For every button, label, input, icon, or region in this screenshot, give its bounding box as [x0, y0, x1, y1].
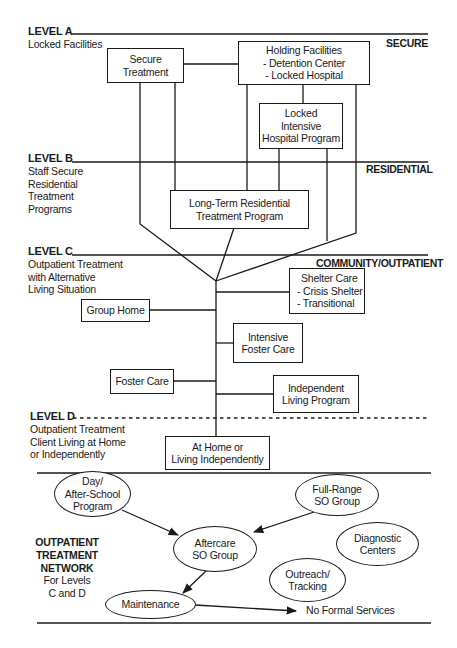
box-text: - Transitional	[297, 297, 354, 310]
level-d-heading: LEVEL D	[30, 410, 126, 423]
box-text: Locked	[285, 107, 318, 120]
box-text: Intensive	[281, 120, 321, 133]
outreach-tracking-node: Outreach/ Tracking	[269, 558, 346, 602]
level-a-label: LEVEL A Locked Facilities	[28, 25, 102, 51]
maintenance-node: Maintenance	[105, 590, 196, 619]
aftercare-so-group-node: Aftercare SO Group	[173, 526, 257, 572]
long-term-residential-box: Long-Term Residential Treatment Program	[170, 190, 309, 229]
box-text: Living Program	[282, 394, 350, 407]
box-text: Foster Care	[115, 375, 168, 388]
node-text: Maintenance	[122, 598, 180, 611]
node-text: SO Group	[192, 549, 238, 562]
node-text: SO Group	[314, 495, 360, 508]
node-text: Program	[73, 500, 112, 513]
node-text: Centers	[360, 544, 395, 557]
secure-treatment-box: Secure Treatment	[107, 48, 184, 83]
box-text: - Detention Center	[263, 57, 345, 70]
level-d-desc-line: Outpatient Treatment	[30, 423, 126, 436]
box-text: Living Independently	[171, 453, 263, 466]
node-text: Diagnostic	[354, 532, 401, 545]
level-c-desc-line: with Alternative	[28, 271, 123, 284]
box-text: Group Home	[86, 304, 144, 317]
box-text: At Home or	[192, 441, 243, 454]
level-a-heading: LEVEL A	[28, 25, 102, 38]
locked-intensive-hospital-box: Locked Intensive Hospital Program	[259, 103, 343, 149]
node-text: After-School	[65, 488, 120, 501]
level-c-label: LEVEL C Outpatient Treatment with Altern…	[28, 245, 123, 296]
level-c-desc-line: Living Situation	[28, 283, 123, 296]
level-b-desc-line: Treatment	[28, 190, 83, 203]
level-d-desc-line: Client Living at Home	[30, 436, 126, 449]
box-text: Long-Term Residential	[189, 197, 290, 210]
holding-facilities-box: Holding Facilities - Detention Center - …	[238, 41, 370, 85]
level-b-label: LEVEL B Staff Secure Residential Treatme…	[28, 152, 83, 216]
network-title-line: OUTPATIENT	[24, 536, 110, 549]
node-text: Day/	[82, 475, 103, 488]
at-home-box: At Home or Living Independently	[165, 436, 270, 470]
node-text: Outreach/	[285, 568, 329, 581]
node-text: Aftercare	[195, 537, 236, 550]
box-text: Intensive	[248, 331, 288, 344]
independent-living-box: Independent Living Program	[273, 375, 359, 413]
zone-secure: SECURE	[386, 37, 428, 49]
box-text: Secure	[129, 53, 161, 66]
box-text: Treatment Program	[196, 210, 283, 223]
box-text: Shelter Care	[297, 272, 358, 285]
foster-care-box: Foster Care	[110, 369, 174, 394]
box-text: Independent	[288, 382, 344, 395]
intensive-foster-care-box: Intensive Foster Care	[233, 323, 303, 363]
level-c-heading: LEVEL C	[28, 245, 123, 258]
box-text: Holding Facilities	[266, 44, 342, 57]
level-a-desc: Locked Facilities	[28, 38, 102, 51]
network-subtitle-line: C and D	[24, 587, 110, 600]
network-title: OUTPATIENT TREATMENT NETWORK For Levels …	[24, 536, 110, 600]
node-text: Tracking	[288, 580, 326, 593]
shelter-care-box: Shelter Care - Crisis Shelter - Transiti…	[289, 268, 365, 314]
zone-residential: RESIDENTIAL	[366, 163, 433, 175]
network-title-line: TREATMENT	[24, 549, 110, 562]
box-text: Foster Care	[241, 343, 294, 356]
level-d-desc-line: or Independently	[30, 448, 126, 461]
node-text: Full-Range	[312, 483, 361, 496]
no-formal-services-label: No Formal Services	[306, 604, 395, 616]
box-text: Treatment	[123, 66, 169, 79]
level-b-desc-line: Staff Secure	[28, 165, 83, 178]
box-text: - Locked Hospital	[265, 69, 343, 82]
diagnostic-centers-node: Diagnostic Centers	[336, 522, 419, 566]
level-d-label: LEVEL D Outpatient Treatment Client Livi…	[30, 410, 126, 461]
box-text: - Crisis Shelter	[297, 285, 363, 298]
network-subtitle-line: For Levels	[24, 574, 110, 587]
level-c-desc-line: Outpatient Treatment	[28, 258, 123, 271]
network-title-line: NETWORK	[24, 562, 110, 575]
level-b-desc-line: Programs	[28, 203, 83, 216]
box-text: Hospital Program	[262, 132, 340, 145]
day-after-school-node: Day/ After-School Program	[54, 471, 131, 517]
level-b-desc-line: Residential	[28, 178, 83, 191]
group-home-box: Group Home	[81, 299, 150, 322]
full-range-so-group-node: Full-Range SO Group	[295, 474, 379, 516]
level-b-heading: LEVEL B	[28, 152, 83, 165]
